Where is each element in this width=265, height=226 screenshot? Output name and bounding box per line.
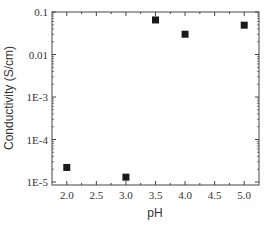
x-tick-label: 3.0 xyxy=(119,189,133,201)
data-point-square xyxy=(152,16,159,23)
y-tick-label: 1E-5 xyxy=(27,176,49,188)
y-axis-label: Conductivity (S/cm) xyxy=(2,46,16,150)
x-tick-label: 5.0 xyxy=(237,189,251,201)
data-point-square xyxy=(241,22,248,29)
y-tick-label: 1E-3 xyxy=(27,91,49,103)
x-axis-label: pH xyxy=(147,206,162,220)
y-tick-label: 1E-4 xyxy=(27,134,49,146)
scatter-chart: 2.02.53.03.54.04.55.0 0.10.011E-31E-41E-… xyxy=(0,0,265,226)
x-tick-label: 2.5 xyxy=(89,189,103,201)
x-tick-label: 4.5 xyxy=(208,189,222,201)
data-point-square xyxy=(122,174,129,181)
x-tick-label: 2.0 xyxy=(60,189,74,201)
x-tick-labels: 2.02.53.03.54.04.55.0 xyxy=(60,189,252,201)
x-tick-label: 3.5 xyxy=(149,189,163,201)
y-tick-label: 0.01 xyxy=(29,49,48,61)
y-tick-labels: 0.10.011E-31E-41E-5 xyxy=(27,6,49,188)
axis-ticks xyxy=(52,12,259,185)
y-tick-label: 0.1 xyxy=(34,6,48,18)
plot-frame xyxy=(52,12,259,185)
data-point-square xyxy=(63,164,70,171)
data-points xyxy=(63,16,247,180)
x-tick-label: 4.0 xyxy=(178,189,192,201)
data-point-square xyxy=(182,31,189,38)
